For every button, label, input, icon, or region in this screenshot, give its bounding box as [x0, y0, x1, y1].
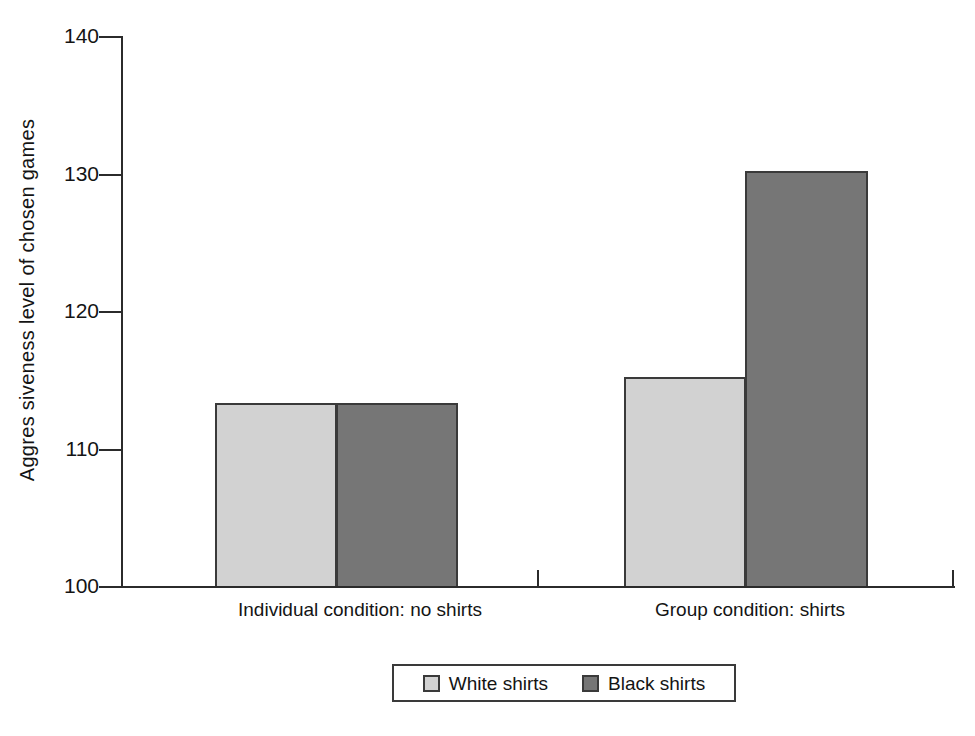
bar-individual-black[interactable] [336, 403, 458, 588]
y-tick-label-100: 100 [39, 575, 99, 596]
bar-chart-figure: Aggres siveness level of chosen games 14… [0, 0, 975, 736]
y-tick-mark-110 [99, 449, 123, 451]
y-tick-label-120: 120 [39, 300, 99, 321]
y-tick-mark-100 [99, 586, 123, 588]
y-tick-label-110-wrap: 110 [35, 438, 99, 460]
y-tick-label-100-wrap: 100 [35, 575, 99, 597]
legend-swatch-white-shirts-icon [423, 675, 440, 692]
legend-swatch-black-shirts-icon [582, 675, 599, 692]
y-tick-mark-140 [99, 36, 123, 38]
legend-label-black-shirts: Black shirts [608, 674, 705, 693]
x-tick-mark-right [952, 570, 954, 588]
y-tick-label-120-wrap: 120 [35, 300, 99, 322]
y-tick-mark-120 [99, 311, 123, 313]
legend-entry-white-shirts[interactable]: White shirts [423, 674, 548, 693]
y-tick-label-140-wrap: 140 [35, 25, 99, 47]
y-tick-label-140: 140 [39, 25, 99, 46]
x-category-label-group: Group condition: shirts [600, 597, 900, 623]
y-tick-label-130: 130 [39, 163, 99, 184]
legend-label-white-shirts: White shirts [449, 674, 548, 693]
chart-legend: White shirts Black shirts [392, 664, 736, 702]
bar-group-black[interactable] [745, 171, 868, 588]
legend-entry-black-shirts[interactable]: Black shirts [582, 674, 705, 693]
x-tick-mark-middle [537, 570, 539, 588]
bar-group-white[interactable] [624, 377, 746, 588]
y-tick-label-130-wrap: 130 [35, 163, 99, 185]
x-tick-mark-left [121, 570, 123, 588]
y-tick-label-110: 110 [39, 438, 99, 459]
x-category-label-individual: Individual condition: no shirts [180, 597, 540, 623]
y-tick-mark-130 [99, 174, 123, 176]
bar-individual-white[interactable] [215, 403, 337, 588]
